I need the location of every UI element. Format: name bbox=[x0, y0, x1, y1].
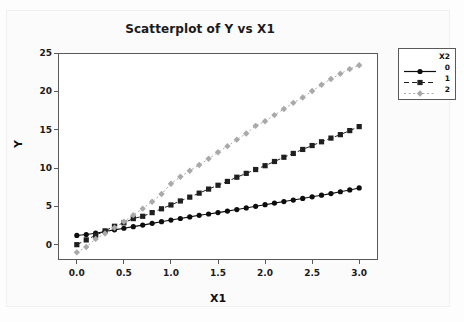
x-tick-label: 1.5 bbox=[203, 268, 233, 278]
y-tick-mark bbox=[54, 129, 58, 130]
legend-label: 0 bbox=[438, 62, 452, 73]
y-tick-label: 25 bbox=[26, 48, 52, 58]
y-tick-label: 10 bbox=[26, 163, 52, 173]
y-tick-mark bbox=[54, 53, 58, 54]
y-tick-mark bbox=[54, 91, 58, 92]
x-tick-mark bbox=[218, 260, 219, 264]
legend-sample-diamond-icon bbox=[402, 84, 438, 95]
legend-item-2[interactable]: 2 bbox=[402, 84, 452, 95]
x-tick-label: 3.0 bbox=[344, 268, 374, 278]
y-axis-title: Y bbox=[12, 140, 25, 148]
y-tick-mark bbox=[54, 206, 58, 207]
legend-item-1[interactable]: 1 bbox=[402, 73, 452, 84]
graph-surface: Scatterplot of Y vs X1 0510152025 0.00.5… bbox=[0, 0, 464, 322]
x-axis-title: X1 bbox=[58, 292, 378, 305]
series-1 bbox=[74, 124, 362, 247]
x-tick-mark bbox=[123, 260, 124, 264]
y-tick-label: 15 bbox=[26, 125, 52, 135]
legend-title: X2 bbox=[402, 52, 452, 61]
chart-title: Scatterplot of Y vs X1 bbox=[0, 22, 400, 36]
y-tick-label: 5 bbox=[26, 201, 52, 211]
x-tick-mark bbox=[359, 260, 360, 264]
series-0 bbox=[74, 185, 362, 238]
x-tick-label: 0.5 bbox=[109, 268, 139, 278]
legend-rows: 012 bbox=[402, 62, 452, 95]
legend-item-0[interactable]: 0 bbox=[402, 62, 452, 73]
y-tick-mark bbox=[54, 168, 58, 169]
chart-app: Scatterplot of Y vs X1 0510152025 0.00.5… bbox=[0, 0, 464, 322]
legend-sample-square-icon bbox=[402, 73, 438, 84]
series-2 bbox=[74, 62, 363, 255]
legend-sample-circle-icon bbox=[402, 62, 438, 73]
x-tick-label: 1.0 bbox=[156, 268, 186, 278]
plot-canvas bbox=[58, 53, 378, 260]
y-tick-label: 20 bbox=[26, 86, 52, 96]
x-tick-mark bbox=[312, 260, 313, 264]
legend-label: 2 bbox=[438, 84, 452, 95]
x-tick-mark bbox=[265, 260, 266, 264]
y-tick-mark bbox=[54, 244, 58, 245]
y-tick-label: 0 bbox=[26, 240, 52, 250]
x-tick-label: 2.0 bbox=[250, 268, 280, 278]
x-tick-mark bbox=[76, 260, 77, 264]
x-tick-label: 0.0 bbox=[62, 268, 92, 278]
x-tick-label: 2.5 bbox=[297, 268, 327, 278]
legend: X2 012 bbox=[398, 48, 456, 100]
x-tick-mark bbox=[170, 260, 171, 264]
legend-label: 1 bbox=[438, 73, 452, 84]
